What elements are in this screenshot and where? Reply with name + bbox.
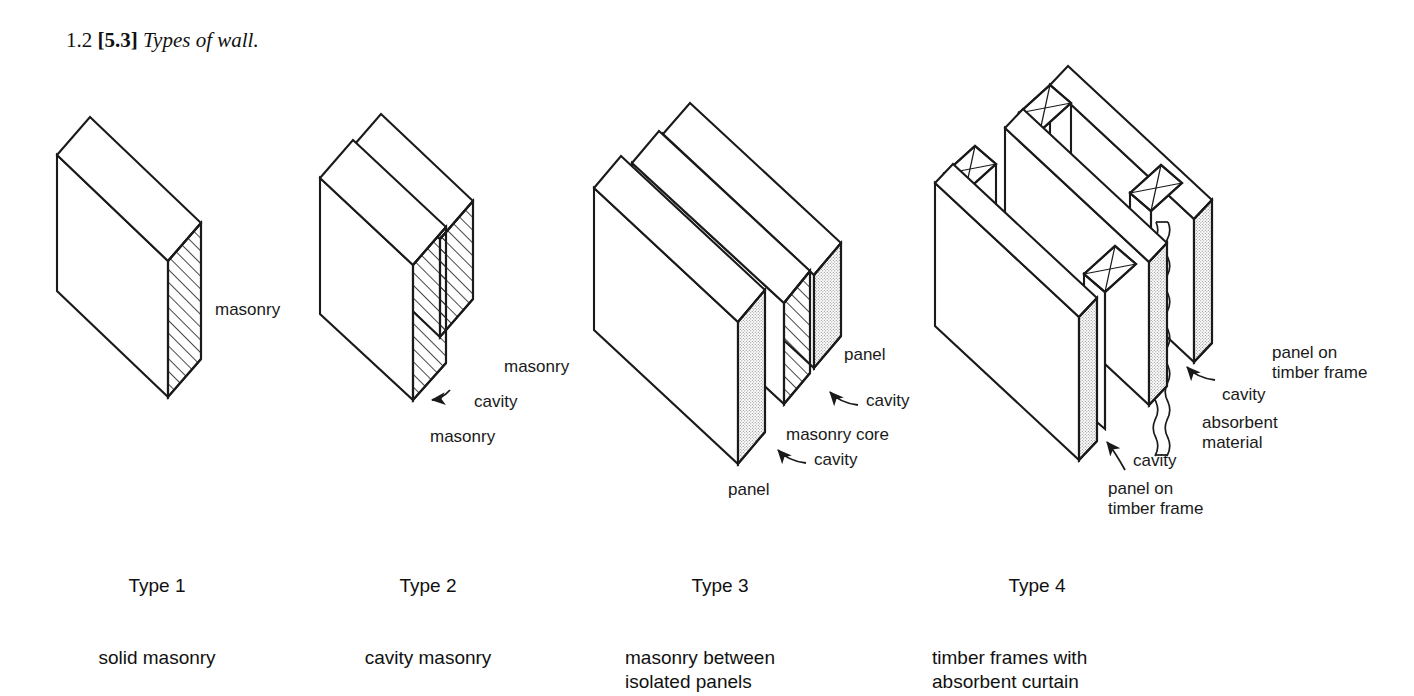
type-4-wall-timber-frames-with-absorbent-curtain — [935, 66, 1212, 460]
type-2-callout-masonry-rear: masonry — [504, 357, 569, 377]
type-2-description: cavity masonry — [318, 646, 538, 670]
leader-type2-cavity — [432, 390, 450, 400]
type-4-mid-panel-edge — [1149, 243, 1167, 405]
type-4-callout-cavity-front: cavity — [1133, 451, 1176, 471]
type-1-description: solid masonry — [47, 646, 267, 670]
type-3-callout-cavity-rear: cavity — [866, 391, 909, 411]
type-2-callout-masonry-front: masonry — [430, 427, 495, 447]
type-3-wall-masonry-between-isolated-panels — [594, 103, 841, 464]
type-2-name: Type 2 — [318, 574, 538, 598]
type-4-callout-absorbent-material: absorbent material — [1202, 413, 1278, 453]
leader-type4-cavity-front — [1107, 442, 1125, 470]
type-4-description: timber frames with absorbent curtain — [932, 646, 1212, 694]
type-3-caption: Type 3 masonry between isolated panels — [625, 526, 875, 696]
type-1-wall-solid-masonry — [57, 117, 201, 397]
type-3-name: Type 3 — [625, 574, 815, 598]
type-2-callout-cavity: cavity — [474, 392, 517, 412]
type-2-caption: Type 2 cavity masonry — [318, 526, 538, 696]
type-4-callout-panel-on-timber-frame-rear: panel on timber frame — [1272, 343, 1367, 383]
leader-type4-cavity-rear — [1187, 367, 1215, 380]
type-4-front-panel-edge — [1079, 298, 1097, 460]
type-4-name: Type 4 — [932, 574, 1142, 598]
type-3-callout-panel-front: panel — [728, 480, 770, 500]
type-3-description: masonry between isolated panels — [625, 646, 875, 694]
type-1-caption: Type 1 solid masonry — [47, 526, 267, 696]
type-3-callout-masonry-core: masonry core — [786, 425, 889, 445]
type-1-callout-masonry: masonry — [215, 300, 280, 320]
type-4-rear-panel-edge — [1194, 200, 1212, 362]
leader-type3-cavity-front — [778, 450, 806, 463]
type-1-name: Type 1 — [47, 574, 267, 598]
type-4-callout-panel-on-timber-frame-front: panel on timber frame — [1108, 479, 1203, 519]
type-4-caption: Type 4 timber frames with absorbent curt… — [932, 526, 1212, 696]
type-3-callout-panel-rear: panel — [844, 345, 886, 365]
type-4-callout-cavity-rear: cavity — [1222, 385, 1265, 405]
type-2-wall-cavity-masonry — [320, 114, 473, 400]
type-3-callout-cavity-front: cavity — [814, 450, 857, 470]
leader-type3-cavity-rear — [830, 392, 858, 405]
